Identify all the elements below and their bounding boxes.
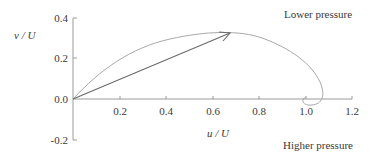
x-tick-label-0.4: 0.4 — [151, 106, 181, 117]
y-tick-label--0.2: -0.2 — [38, 135, 68, 146]
y-tick-label-0.2: 0.2 — [38, 53, 68, 64]
x-tick-label-0.2: 0.2 — [105, 106, 135, 117]
hodograph-curve — [73, 32, 323, 105]
x-tick-label-0.8: 0.8 — [244, 106, 274, 117]
y-axis-title: v / U — [14, 30, 35, 41]
y-tick-label-0.4: 0.4 — [38, 13, 68, 24]
lower-pressure-annotation: Lower pressure — [284, 9, 352, 20]
x-tick-label-1.2: 1.2 — [337, 106, 367, 117]
x-tick-label-0.6: 0.6 — [198, 106, 228, 117]
velocity-vector — [73, 33, 230, 99]
higher-pressure-annotation: Higher pressure — [283, 140, 353, 151]
x-axis-title: u / U — [207, 128, 229, 139]
x-tick-label-1.0: 1.0 — [291, 106, 321, 117]
y-tick-label-0.0: 0.0 — [38, 94, 68, 105]
